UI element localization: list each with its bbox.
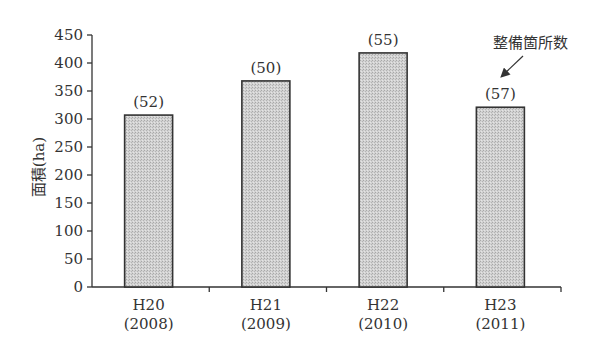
y-tick-label: 450 bbox=[54, 26, 83, 44]
bar-h22 bbox=[359, 53, 407, 287]
y-tick-label: 100 bbox=[54, 222, 83, 240]
y-tick-label: 400 bbox=[54, 54, 83, 72]
y-axis-label: 面積(ha) bbox=[30, 137, 48, 197]
bar-h23 bbox=[476, 107, 524, 287]
x-category-sublabel: (2008) bbox=[124, 315, 174, 333]
bar-count-label: (50) bbox=[250, 59, 281, 77]
x-category-sublabel: (2011) bbox=[475, 315, 525, 333]
y-tick-label: 150 bbox=[54, 194, 83, 212]
x-category-sublabel: (2009) bbox=[241, 315, 291, 333]
x-category-label: H21 bbox=[250, 296, 282, 314]
bar-h20 bbox=[125, 115, 173, 287]
bar-chart: 050100150200250300350400450 (52)(50)(55)… bbox=[0, 0, 590, 353]
y-tick-label: 300 bbox=[54, 110, 83, 128]
annotation-arrow-icon bbox=[502, 56, 523, 76]
x-category-label: H20 bbox=[133, 296, 165, 314]
y-tick-label: 350 bbox=[54, 82, 83, 100]
x-category-label: H23 bbox=[484, 296, 516, 314]
bar-count-label: (55) bbox=[368, 31, 399, 49]
x-category-sublabel: (2010) bbox=[358, 315, 408, 333]
y-tick-label: 0 bbox=[73, 278, 83, 296]
category-labels: H20(2008)H21(2009)H22(2010)H23(2011) bbox=[124, 296, 526, 333]
bar-count-label: (52) bbox=[133, 93, 164, 111]
bar-h21 bbox=[242, 81, 290, 287]
y-tick-label: 250 bbox=[54, 138, 83, 156]
y-tick-label: 200 bbox=[54, 166, 83, 184]
annotation-label: 整備箇所数 bbox=[493, 34, 568, 52]
y-axis: 050100150200250300350400450 bbox=[54, 26, 92, 296]
bar-count-label: (57) bbox=[485, 85, 516, 103]
bars: (52)(50)(55)(57) bbox=[125, 31, 525, 287]
y-tick-label: 50 bbox=[64, 250, 83, 268]
x-category-label: H22 bbox=[367, 296, 399, 314]
